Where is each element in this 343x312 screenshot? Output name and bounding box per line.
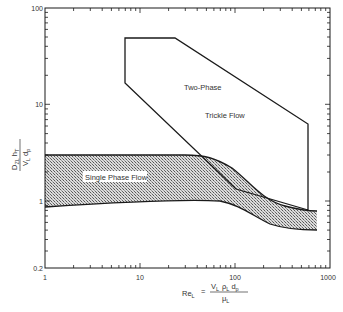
trickle-flow-label: Trickle Flow (205, 111, 245, 120)
svg-text:DZLhT: DZLhT (10, 148, 20, 170)
y-tick-label-0.2: 0.2 (33, 265, 43, 272)
x-tick-label-100: 100 (229, 274, 241, 281)
svg-text:μL: μL (222, 294, 229, 304)
single-phase-band (45, 155, 317, 230)
x-tick-label-10: 10 (136, 274, 144, 281)
svg-text:VLρLdp: VLρLdp (211, 282, 239, 292)
x-tick-label-1000: 1000 (320, 274, 336, 281)
svg-text:=: = (201, 287, 206, 296)
x-tick-label-1: 1 (43, 274, 47, 281)
chart: 1 10 100 1000 100 10 1 0.2 Two-Phase Tri… (0, 0, 343, 312)
svg-text:ReL: ReL (182, 289, 195, 299)
plot-frame (45, 8, 330, 268)
two-phase-label: Two-Phase (184, 83, 222, 92)
x-ticks (74, 8, 326, 268)
single-phase-flow-label: Single Phase Flow (85, 173, 148, 182)
y-axis-label: DZLhT VLdp (10, 139, 31, 171)
y-tick-label-10: 10 (35, 101, 43, 108)
x-axis-label: ReL = VLρLdp μL (182, 282, 248, 304)
y-tick-label-100: 100 (31, 5, 43, 12)
svg-text:VLdp: VLdp (21, 149, 31, 166)
y-tick-label-1: 1 (39, 198, 43, 205)
